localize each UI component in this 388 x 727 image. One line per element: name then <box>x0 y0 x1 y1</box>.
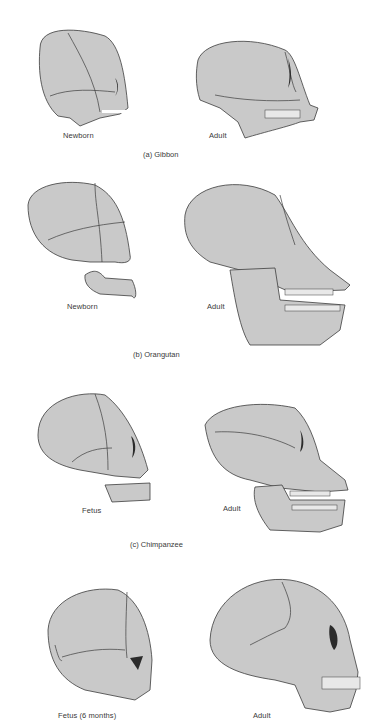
human-adult-skull <box>210 579 360 712</box>
gibbon-adult-label: Adult <box>209 131 227 140</box>
skull-comparison-figure: Newborn Adult (a) Gibbon Newborn Adult (… <box>0 0 388 727</box>
gibbon-newborn-label: Newborn <box>63 131 94 140</box>
human-fetus-skull <box>48 589 152 700</box>
orangutan-newborn-skull <box>28 182 136 297</box>
orangutan-caption: (b) Orangutan <box>133 350 180 359</box>
chimpanzee-fetus-skull <box>38 394 150 502</box>
human-adult-label: Adult <box>253 711 271 720</box>
orangutan-adult-label: Adult <box>207 302 225 311</box>
chimpanzee-caption: (c) Chimpanzee <box>130 540 183 549</box>
orangutan-adult-skull <box>185 185 350 345</box>
gibbon-newborn-skull <box>39 30 128 126</box>
skull-illustrations <box>0 0 388 727</box>
chimpanzee-adult-label: Adult <box>223 504 241 513</box>
chimpanzee-fetus-label: Fetus <box>82 506 101 515</box>
human-fetus-label: Fetus (6 months) <box>58 711 116 720</box>
gibbon-adult-skull <box>196 41 318 138</box>
gibbon-caption: (a) Gibbon <box>143 150 178 159</box>
orangutan-newborn-label: Newborn <box>67 302 98 311</box>
